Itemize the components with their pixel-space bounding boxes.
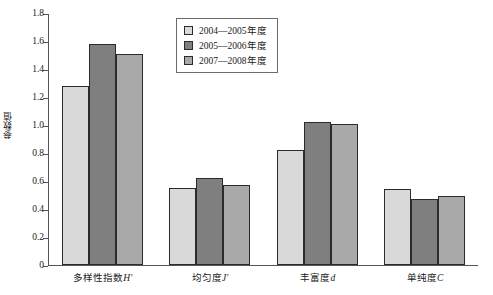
legend-label: 2005—2006年度 xyxy=(199,40,267,52)
y-tick-label: 0.8 xyxy=(32,147,44,160)
legend-item: 2004—2005年度 xyxy=(184,23,267,38)
legend-item: 2005—2006年度 xyxy=(184,38,267,53)
bar xyxy=(411,199,438,266)
bar xyxy=(304,122,331,266)
legend-swatch xyxy=(184,26,193,35)
legend-label: 2007—2008年度 xyxy=(199,55,267,67)
y-tick-label: 0 xyxy=(39,259,44,272)
y-tick-label: 1.6 xyxy=(32,35,44,48)
bar xyxy=(331,124,358,265)
y-tick-label: 0.4 xyxy=(32,203,44,216)
y-tick-label: 1.0 xyxy=(32,119,44,132)
bar xyxy=(196,178,223,266)
x-axis-label: 多样性指数H′ xyxy=(49,272,157,284)
x-axis-label: 均匀度J′ xyxy=(157,272,265,284)
legend-swatch xyxy=(184,41,193,50)
x-axis-line xyxy=(48,265,478,266)
bar xyxy=(89,44,116,265)
x-axis-labels: 多样性指数H′均匀度J′丰富度d单纯度C xyxy=(49,272,479,284)
bar-group xyxy=(49,14,156,265)
legend-item: 2007—2008年度 xyxy=(184,53,267,68)
y-tick-label: 1.4 xyxy=(32,63,44,76)
y-tick-label: 0.2 xyxy=(32,231,44,244)
y-tick-label: 1.8 xyxy=(32,7,44,20)
x-axis-label: 丰富度d xyxy=(264,272,372,284)
y-tick-label: 1.2 xyxy=(32,91,44,104)
bar xyxy=(116,54,143,265)
y-axis-title: 参数值 xyxy=(2,112,16,139)
legend-swatch xyxy=(184,56,193,65)
x-axis-label: 单纯度C xyxy=(372,272,480,284)
legend: 2004—2005年度2005—2006年度2007—2008年度 xyxy=(176,18,278,73)
bar-group xyxy=(371,14,478,265)
bar xyxy=(169,188,196,265)
bar xyxy=(223,185,250,265)
bar-chart: 参数值 00.20.40.60.81.01.21.41.61.8 多样性指数H′… xyxy=(0,0,493,295)
y-tick-label: 0.6 xyxy=(32,175,44,188)
legend-label: 2004—2005年度 xyxy=(199,25,267,37)
bar xyxy=(277,150,304,265)
bar-group xyxy=(264,14,371,265)
bar xyxy=(438,196,465,265)
bar xyxy=(384,189,411,265)
bar xyxy=(62,86,89,265)
